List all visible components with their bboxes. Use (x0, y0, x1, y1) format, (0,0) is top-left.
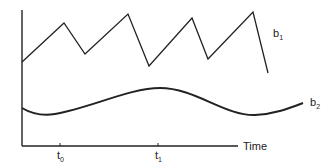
series-b1-line (22, 12, 268, 73)
series-b2-line (22, 88, 303, 115)
tick-label-t0: t0 (57, 150, 64, 163)
x-axis-label: Time (243, 141, 267, 152)
t1-sub: 1 (158, 156, 162, 163)
series-b1-label: b1 (273, 28, 283, 41)
b1-sub: 1 (279, 34, 283, 41)
t0-sub: 0 (60, 156, 64, 163)
b2-sub: 2 (316, 103, 320, 110)
tick-label-t1: t1 (155, 150, 162, 163)
series-b2-label: b2 (310, 97, 320, 110)
time-diagram (0, 0, 335, 168)
